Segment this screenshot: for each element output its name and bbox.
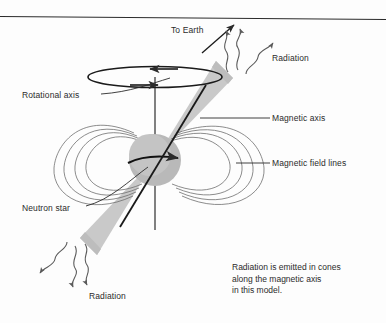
caption-line-3: in this model. (232, 285, 341, 297)
top-rule (0, 17, 386, 20)
leader-rotational-axis (101, 78, 170, 94)
radiation-waves-lower (40, 242, 89, 287)
label-magnetic-field-lines: Magnetic field lines (272, 158, 346, 168)
to-earth-arrow (202, 25, 234, 53)
caption-block: Radiation is emitted in cones along the … (232, 262, 341, 297)
caption-line-2: along the magnetic axis (232, 274, 341, 286)
label-radiation-bottom: Radiation (89, 291, 126, 301)
caption-line-1: Radiation is emitted in cones (232, 262, 341, 274)
label-radiation-top: Radiation (272, 53, 309, 63)
label-neutron-star: Neutron star (22, 203, 70, 213)
radiation-waves-upper (224, 29, 273, 74)
label-rotational-axis: Rotational axis (22, 90, 79, 100)
label-to-earth: To Earth (171, 25, 203, 35)
label-magnetic-axis: Magnetic axis (272, 113, 325, 123)
pulsar-diagram-figure: To Earth Radiation Rotational axis Magne… (0, 0, 386, 323)
